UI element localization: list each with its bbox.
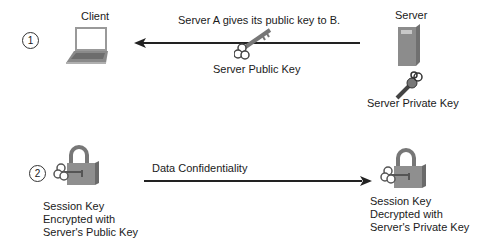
server-label: Server [395,9,427,22]
public-key-label: Server Public Key [213,63,300,76]
decrypted-label-line-1: Session Key [370,195,469,208]
decrypted-label-line-3: Server's Private Key [370,221,469,234]
decrypted-lock-label: Session Key Decrypted with Server's Priv… [370,195,469,234]
encrypted-label-line-3: Server's Public Key [43,226,138,239]
client-label: Client [81,10,109,23]
encrypted-label-line-1: Session Key [43,200,138,213]
step-2-badge: 2 [29,165,46,182]
encrypted-lock-label: Session Key Encrypted with Server's Publ… [43,200,138,239]
private-key-label: Server Private Key [367,97,459,110]
server-icon [398,24,420,66]
encrypted-lock-icon [53,145,101,187]
step-2-arrow-label: Data Confidentiality [152,162,247,175]
laptop-icon [64,26,110,66]
arrowhead-right-icon [360,175,372,187]
arrowhead-left-icon [134,37,146,49]
step-1-badge: 1 [22,32,39,49]
public-key-icon [234,26,274,60]
decrypted-lock-icon [380,148,428,190]
encrypted-label-line-2: Encrypted with [43,213,138,226]
data-confidentiality-arrow [144,180,362,182]
decrypted-label-line-2: Decrypted with [370,208,469,221]
